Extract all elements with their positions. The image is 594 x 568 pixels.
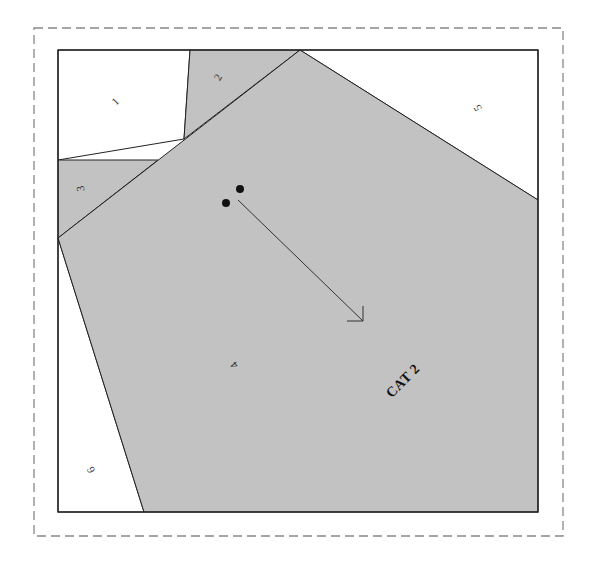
pattern-diagram: 1 2 3 4 5 6 CAT 2 <box>0 0 594 568</box>
piece-1 <box>58 50 190 160</box>
registration-dot-1 <box>236 185 244 193</box>
registration-dot-2 <box>222 199 230 207</box>
